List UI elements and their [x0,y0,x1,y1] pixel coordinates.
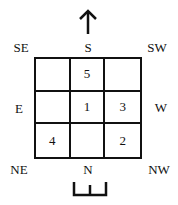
label-n: N [83,163,92,176]
grid-cell [36,59,71,92]
gate-icon [72,181,108,197]
label-w: W [155,101,167,114]
grid-cell: 5 [71,59,106,92]
grid-cell: 2 [105,124,140,157]
grid-cell [105,59,140,92]
label-e: E [15,102,23,115]
label-nw: NW [148,163,170,176]
label-s: S [84,41,91,54]
grid-cell: 4 [36,124,71,157]
grid-cell: 3 [105,92,140,125]
arrow-up-icon [78,8,98,36]
label-ne: NE [10,163,27,176]
grid-cell [71,124,106,157]
label-sw: SW [147,41,167,54]
nine-grid: 5 1 3 4 2 [34,57,142,159]
grid-cell: 1 [71,92,106,125]
label-se: SE [13,41,28,54]
grid-cell [36,92,71,125]
